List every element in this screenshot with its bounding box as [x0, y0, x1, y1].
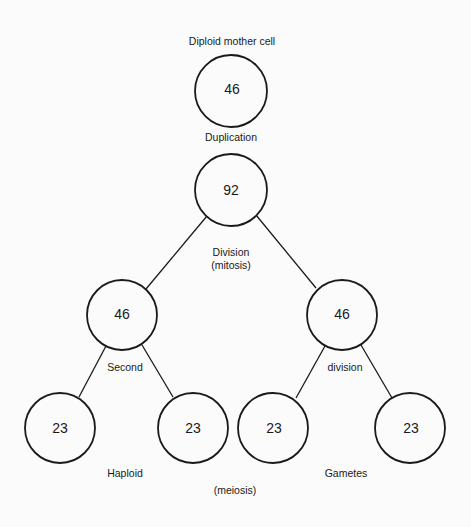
label-duplication: Duplication — [205, 131, 257, 144]
node-gamete4-value: 23 — [403, 420, 419, 436]
label-division-mitosis-line2: (mitosis) — [211, 259, 251, 272]
node-gamete2-value: 23 — [185, 420, 201, 436]
label-division-mitosis-line1: Division — [213, 246, 250, 259]
edge-duplicated-right46 — [256, 215, 316, 288]
node-left46-value: 46 — [114, 306, 130, 322]
edge-left46-gamete1 — [79, 346, 106, 397]
node-mother-value: 46 — [224, 81, 240, 97]
label-mother-cell: Diploid mother cell — [189, 35, 275, 48]
edge-right46-gamete4 — [361, 345, 392, 398]
label-haploid: Haploid — [107, 467, 143, 480]
node-duplicated-value: 92 — [223, 182, 239, 198]
node-right46-value: 46 — [334, 306, 350, 322]
label-second: Second — [107, 361, 143, 374]
label-gametes: Gametes — [325, 467, 368, 480]
edge-duplicated-left46 — [146, 216, 207, 289]
node-gamete1-value: 23 — [52, 420, 68, 436]
label-meiosis: (meiosis) — [214, 484, 257, 497]
edge-right46-gamete3 — [296, 346, 325, 398]
edge-left46-gamete2 — [142, 345, 173, 397]
node-gamete3-value: 23 — [266, 420, 282, 436]
label-division: division — [327, 361, 362, 374]
